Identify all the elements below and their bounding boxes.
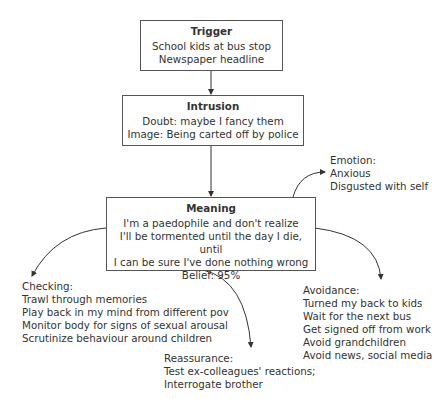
emotion-line: Disgusted with self [330, 180, 428, 193]
meaning-title: Meaning [107, 202, 315, 215]
reassurance-line: Test ex-colleagues' reactions; [164, 365, 316, 378]
arrow-meaning-to-checking [32, 228, 106, 276]
meaning-line: I can be sure I've done nothing wrong [107, 256, 315, 269]
meaning-line: I'm a paedophile and don't realize [107, 217, 315, 230]
reassurance-line: Interrogate brother [164, 378, 316, 391]
avoidance-label: Avoidance: Turned my back to kids Wait f… [303, 284, 432, 362]
reassurance-title: Reassurance: [164, 352, 316, 365]
checking-line: Scrutinize behaviour around children [22, 332, 229, 345]
emotion-label: Emotion: Anxious Disgusted with self [330, 154, 428, 193]
meaning-box: Meaning I'm a paedophile and don't reali… [106, 197, 316, 271]
trigger-line: School kids at bus stop [141, 40, 282, 53]
intrusion-line: Doubt: maybe I fancy them [123, 115, 303, 128]
avoidance-line: Avoid news, social media [303, 349, 432, 362]
trigger-line: Newspaper headline [141, 53, 282, 66]
checking-line: Monitor body for signs of sexual arousal [22, 319, 229, 332]
arrow-meaning-to-avoidance [315, 228, 381, 279]
avoidance-line: Turned my back to kids [303, 297, 432, 310]
intrusion-box: Intrusion Doubt: maybe I fancy them Imag… [122, 95, 304, 146]
reassurance-label: Reassurance: Test ex-colleagues' reactio… [164, 352, 316, 391]
trigger-title: Trigger [141, 25, 282, 38]
checking-line: Play back in my mind from different pov [22, 306, 229, 319]
meaning-line: I'll be tormented until the day I die, u… [107, 230, 315, 256]
trigger-box: Trigger School kids at bus stop Newspape… [140, 20, 283, 71]
avoidance-line: Avoid grandchildren [303, 336, 432, 349]
avoidance-line: Wait for the next bus [303, 310, 432, 323]
checking-line: Trawl through memories [22, 293, 229, 306]
emotion-line: Anxious [330, 167, 428, 180]
arrow-meaning-to-emotion [293, 172, 325, 197]
intrusion-line: Image: Being carted off by police [123, 128, 303, 141]
checking-title: Checking: [22, 280, 229, 293]
checking-label: Checking: Trawl through memories Play ba… [22, 280, 229, 345]
emotion-title: Emotion: [330, 154, 428, 167]
avoidance-title: Avoidance: [303, 284, 432, 297]
intrusion-title: Intrusion [123, 100, 303, 113]
avoidance-line: Get signed off from work [303, 323, 432, 336]
